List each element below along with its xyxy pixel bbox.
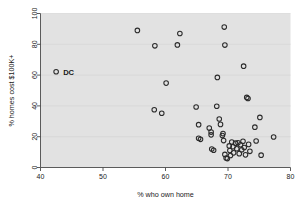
y-tick-label-40: 40 xyxy=(31,102,38,110)
plot-area-background xyxy=(41,14,291,168)
x-tick-label-50: 50 xyxy=(99,173,107,180)
point-annotation-dc: DC xyxy=(63,68,74,77)
y-axis-title: % homes cost $100K+ xyxy=(7,54,16,126)
x-tick-label-40: 40 xyxy=(37,173,45,180)
y-tick-label-0: 0 xyxy=(31,165,38,169)
y-tick-label-100: 100 xyxy=(31,8,38,20)
y-tick-label-80: 80 xyxy=(31,40,38,48)
y-axis-ticks: 020406080100 xyxy=(31,8,41,170)
x-axis-title: % who own home xyxy=(137,190,194,199)
y-tick-label-60: 60 xyxy=(31,71,38,79)
x-tick-label-80: 80 xyxy=(287,173,295,180)
y-tick-label-20: 20 xyxy=(31,133,38,141)
x-axis-ticks: 4050607080 xyxy=(37,168,295,181)
chart-canvas: DC4050607080020406080100% who own home% … xyxy=(0,0,301,205)
scatter-chart: DC4050607080020406080100% who own home% … xyxy=(0,0,301,205)
x-tick-label-60: 60 xyxy=(162,173,170,180)
x-tick-label-70: 70 xyxy=(224,173,232,180)
